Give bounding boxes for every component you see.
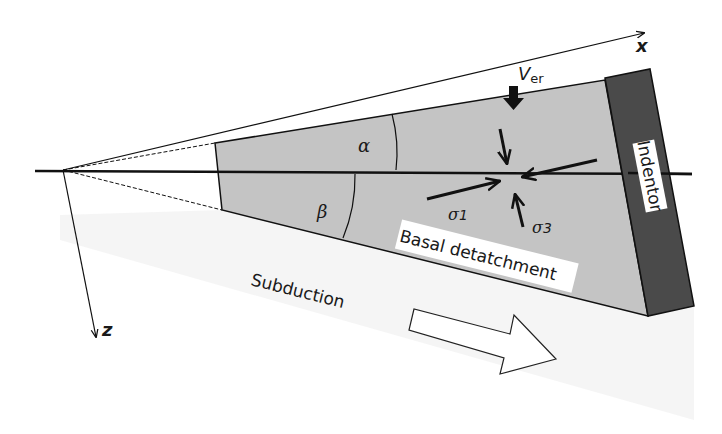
wedge-diagram: Indentor α β Ver σ1 σ3 Basal detatchment…	[0, 0, 722, 434]
sigma3-label: σ3	[532, 218, 552, 237]
beta-label: β	[316, 201, 327, 222]
z-axis	[63, 170, 96, 337]
sigma3-sub: 3	[543, 220, 552, 236]
ver-sub: er	[530, 71, 544, 86]
x-axis-label: x	[635, 35, 649, 56]
dashed-upper	[63, 143, 215, 170]
dashed-lower	[63, 170, 222, 210]
sigma1-label: σ1	[448, 205, 468, 224]
alpha-label: α	[358, 135, 370, 156]
ver-label: Ver	[518, 63, 544, 86]
z-axis-label: z	[101, 319, 113, 340]
sigma1-sub: 1	[459, 207, 468, 223]
